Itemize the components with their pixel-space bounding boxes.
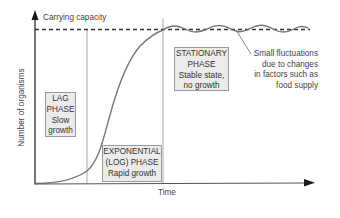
- annotation-line-4: food supply: [240, 81, 318, 92]
- lag-phase-line-4: growth: [46, 126, 75, 137]
- exponential-phase-line-2: (LOG) PHASE: [103, 158, 161, 169]
- exponential-phase-box: EXPONENTIAL (LOG) PHASE Rapid growth: [102, 145, 162, 182]
- stationary-phase-line-1: STATIONARY: [175, 49, 228, 60]
- y-axis-arrow-icon: [32, 10, 39, 20]
- x-axis-label: Time: [158, 188, 176, 197]
- y-axis-label: Number of organisms: [17, 62, 26, 154]
- x-axis: [35, 183, 306, 184]
- stationary-phase-line-3: Stable state,: [175, 71, 228, 82]
- annotation-line-3: in factors such as: [240, 70, 318, 81]
- lag-phase-line-1: LAG: [46, 94, 75, 105]
- stationary-phase-line-2: PHASE: [175, 60, 228, 71]
- annotation-line-2: due to changes: [240, 60, 318, 71]
- carrying-capacity-label: Carrying capacity: [43, 13, 106, 22]
- fluctuation-annotation: Small fluctuations due to changes in fac…: [240, 49, 318, 91]
- fluctuation-wave: [163, 25, 308, 32]
- exponential-phase-line-1: EXPONENTIAL: [103, 147, 161, 158]
- x-axis-arrow-icon: [304, 179, 315, 187]
- lag-phase-line-3: Slow: [46, 116, 75, 127]
- stationary-phase-box: STATIONARY PHASE Stable state, no growth: [174, 47, 229, 91]
- exponential-phase-line-3: Rapid growth: [103, 169, 161, 180]
- stationary-phase-line-4: no growth: [175, 81, 228, 92]
- lag-phase-line-2: PHASE: [46, 105, 75, 116]
- annotation-line-1: Small fluctuations: [240, 49, 318, 60]
- lag-phase-box: LAG PHASE Slow growth: [45, 92, 76, 137]
